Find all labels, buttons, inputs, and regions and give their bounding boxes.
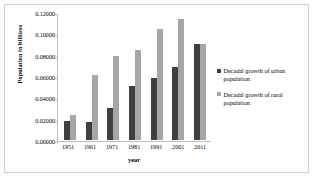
x-axis-tick-label: 1971	[106, 144, 118, 154]
bar-group	[129, 14, 141, 140]
legend-label: Decadal growth of urban population	[224, 67, 310, 84]
y-axis-tick-mark	[55, 142, 58, 143]
y-axis-tick-mark	[55, 35, 58, 36]
bar-group	[107, 14, 119, 140]
bar-group	[172, 14, 184, 140]
y-axis-tick-labels: 0.000000.020000.040000.060000.080000.100…	[19, 14, 55, 142]
legend-swatch-icon	[217, 92, 221, 96]
bar-group	[194, 14, 206, 140]
bar-group	[151, 14, 163, 140]
bar-rural-1971	[113, 56, 119, 140]
bar-rural-1961	[92, 75, 98, 140]
y-axis-tick-mark	[55, 78, 58, 79]
y-axis-tick-label: 0.04000	[19, 96, 55, 102]
plot-area	[57, 14, 211, 142]
x-axis-tick-label: 1951	[62, 144, 74, 154]
bar-rural-2001	[178, 19, 184, 140]
bar-rural-1991	[157, 29, 163, 140]
y-axis-tick-label: 0.00000	[19, 139, 55, 145]
legend-entry[interactable]: Decadal growth of urban population	[217, 67, 309, 84]
y-axis-tick-label: 0.02000	[19, 118, 55, 124]
y-axis-tick-label: 0.06000	[19, 75, 55, 81]
legend-label: Decadal growth of rural population	[224, 91, 310, 108]
chart-legend: Decadal growth of urban populationDecada…	[217, 67, 309, 114]
bar-rural-2011	[200, 44, 206, 140]
y-axis-tick-label: 0.08000	[19, 54, 55, 60]
bar-group	[64, 14, 76, 140]
x-axis-tick-label: 1981	[128, 144, 140, 154]
bar-rural-1981	[135, 50, 141, 140]
x-axis-title: year	[57, 157, 211, 163]
y-axis-tick-mark	[55, 99, 58, 100]
y-axis-tick-mark	[55, 14, 58, 15]
y-axis-tick-label: 0.10000	[19, 32, 55, 38]
y-axis-tick-label: 0.12000	[19, 11, 55, 17]
bars-layer	[59, 14, 211, 140]
chart-container: Population in billions 0.000000.020000.0…	[4, 4, 309, 173]
legend-swatch-icon	[217, 69, 221, 73]
bar-rural-1951	[70, 115, 76, 140]
bar-group	[86, 14, 98, 140]
legend-entry[interactable]: Decadal growth of rural population	[217, 91, 309, 108]
y-axis-tick-mark	[55, 121, 58, 122]
x-axis-tick-label: 2001	[172, 144, 184, 154]
x-axis-tick-label: 1961	[84, 144, 96, 154]
x-axis-tick-labels: 1951196119711981199120012011	[57, 144, 211, 154]
y-axis-tick-mark	[55, 57, 58, 58]
x-axis-tick-label: 1991	[150, 144, 162, 154]
x-axis-tick-label: 2011	[194, 144, 206, 154]
